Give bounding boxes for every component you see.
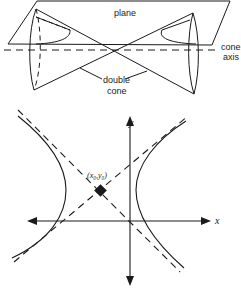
y-axis-label: y — [128, 117, 134, 128]
x-axis-arrow-right-icon — [201, 217, 211, 225]
x-axis-label: x — [214, 215, 220, 226]
double-cone-label-line2: cone — [107, 86, 127, 96]
left-hyperbola-section — [36, 17, 70, 44]
hyperbola-conic-diagram: plane cone axis double cone y x (x₀,y₀) — [0, 0, 241, 305]
hyperbola-plot — [12, 110, 204, 280]
y-axis-arrow-down-icon — [126, 276, 134, 286]
right-cone-base — [189, 13, 199, 94]
plane-label: plane — [114, 8, 136, 18]
cone-axis-label-line2: axis — [223, 52, 240, 62]
hyperbola-left-branch — [12, 116, 66, 258]
axis-arrows — [27, 116, 211, 286]
double-cone-leader — [80, 68, 102, 79]
center-point-marker — [94, 184, 107, 197]
double-cone-label-line1: double — [103, 75, 130, 85]
center-point-label: (x₀,y₀) — [87, 171, 107, 180]
x-axis-arrow-left-icon — [27, 217, 37, 225]
hyperbola-right-branch — [136, 121, 186, 268]
cone-axis-label-line1: cone — [221, 42, 241, 52]
